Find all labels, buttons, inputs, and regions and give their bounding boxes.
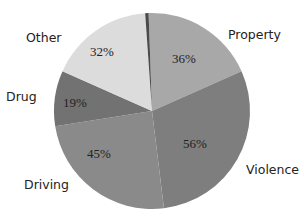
label-other: Other <box>26 30 62 45</box>
label-violence: Violence <box>246 162 299 177</box>
value-driving: 45% <box>87 146 111 162</box>
value-property: 36% <box>172 51 196 67</box>
value-violence: 56% <box>183 136 207 152</box>
label-property: Property <box>228 27 281 42</box>
value-drug: 19% <box>63 95 87 111</box>
label-drug: Drug <box>6 89 37 104</box>
label-driving: Driving <box>24 177 69 192</box>
value-other: 32% <box>90 44 114 60</box>
